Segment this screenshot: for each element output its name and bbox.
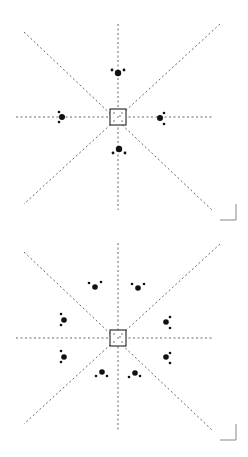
dot-cluster-mid-upper-left [60, 313, 67, 327]
dot-cluster-upper-left [88, 281, 103, 290]
dot-cluster-right [157, 112, 165, 126]
cluster-dot [163, 354, 169, 360]
center-box-mark [119, 115, 121, 117]
cluster-dot [143, 283, 146, 286]
center-box-mark [119, 336, 121, 338]
cluster-dot [163, 319, 169, 325]
cluster-dot [135, 285, 141, 291]
center-box-mark [121, 341, 123, 343]
cluster-dot [124, 152, 127, 155]
panel-8-cluster [16, 243, 236, 440]
center-box-mark [113, 341, 115, 343]
dot-cluster-mid-lower-right [163, 352, 171, 365]
cluster-dot [60, 313, 63, 316]
dot-cluster-left [58, 111, 65, 124]
cluster-dot [106, 375, 109, 378]
dot-cluster-bottom [112, 146, 127, 155]
cluster-dot [100, 281, 103, 284]
cluster-dot [131, 283, 134, 286]
center-box-mark [121, 120, 123, 122]
cluster-dot [58, 111, 61, 114]
cluster-dot [59, 114, 65, 120]
center-box-mark [117, 116, 119, 118]
cluster-dot [58, 121, 61, 124]
cluster-dot [163, 112, 166, 115]
cluster-dot [60, 361, 63, 364]
cluster-dot [123, 69, 126, 72]
cluster-dot [157, 115, 163, 121]
cluster-dot [99, 369, 105, 375]
radial-pattern-canvas [0, 0, 248, 457]
center-box-mark [113, 333, 115, 335]
dot-cluster-upper-right [131, 283, 146, 291]
cluster-dot [163, 123, 166, 126]
cluster-dot [60, 324, 63, 327]
cluster-dot [60, 350, 63, 353]
cluster-dot [92, 284, 98, 290]
cluster-dot [169, 362, 172, 365]
cluster-dot [169, 316, 172, 319]
center-box-mark [121, 112, 123, 114]
cluster-dot [61, 354, 67, 360]
cluster-dot [139, 375, 142, 378]
panel-4-cluster [16, 24, 236, 220]
cluster-dot [169, 327, 172, 330]
cluster-dot [116, 146, 122, 152]
cluster-dot [128, 376, 131, 379]
cluster-dot [169, 352, 172, 355]
cluster-dot [61, 317, 67, 323]
cluster-dot [88, 282, 91, 285]
cluster-dot [112, 152, 115, 155]
dot-cluster-mid-lower-left [60, 350, 67, 364]
dot-cluster-mid-upper-right [163, 316, 171, 330]
center-box-mark [117, 337, 119, 339]
corner-bracket-icon [220, 424, 236, 440]
center-box-mark [113, 120, 115, 122]
dot-cluster-lower-right [128, 370, 142, 378]
dot-cluster-lower-left [95, 369, 109, 377]
center-box-mark [113, 112, 115, 114]
cluster-dot [115, 70, 121, 76]
center-box-mark [121, 333, 123, 335]
cluster-dot [95, 375, 98, 378]
cluster-dot [111, 69, 114, 72]
diagram-figure [0, 0, 248, 457]
cluster-dot [132, 370, 138, 376]
corner-bracket-icon [220, 204, 236, 220]
